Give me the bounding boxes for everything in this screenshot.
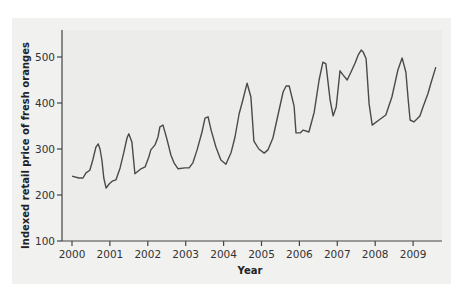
x-tick-label: 2007 bbox=[324, 248, 351, 260]
y-tick-label: 100 bbox=[35, 235, 55, 247]
y-tick-label: 500 bbox=[35, 51, 55, 63]
x-tick-label: 2000 bbox=[59, 248, 86, 260]
x-tick-label: 2002 bbox=[134, 248, 161, 260]
x-tick-label: 2001 bbox=[97, 248, 124, 260]
x-tick-label: 2003 bbox=[172, 248, 199, 260]
y-tick-label: 400 bbox=[35, 97, 55, 109]
x-tick-label: 2006 bbox=[286, 248, 313, 260]
y-tick-label: 300 bbox=[35, 143, 55, 155]
x-axis-title: Year bbox=[237, 265, 263, 276]
plot-area bbox=[62, 30, 442, 241]
x-tick-label: 2009 bbox=[400, 248, 427, 260]
y-axis-title: Indexed retail price of fresh oranges bbox=[20, 42, 31, 249]
x-tick-label: 2004 bbox=[210, 248, 237, 260]
x-tick-label: 2008 bbox=[362, 248, 389, 260]
line-chart: 1002003004005002000200120022003200420052… bbox=[0, 0, 465, 293]
y-tick-label: 200 bbox=[35, 189, 55, 201]
x-tick-label: 2005 bbox=[248, 248, 275, 260]
